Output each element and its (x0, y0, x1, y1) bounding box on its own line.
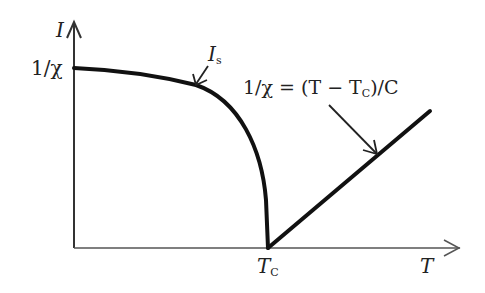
chi-equation-main: 1/χ = (T − T (243, 76, 362, 98)
chi-pointer-arrow (329, 105, 376, 153)
is-label-main: I (208, 42, 216, 66)
y-axis-label: I (56, 18, 64, 42)
tc-tick-label: TC (257, 254, 279, 279)
x-axis-label: T (420, 254, 433, 278)
plot-svg (0, 0, 485, 293)
tc-main: T (257, 254, 270, 278)
chi-equation-sub: C (362, 87, 370, 100)
chi-equation-label: 1/χ = (T − TC)/C (243, 76, 399, 100)
diagram-canvas: I 1/χ Is 1/χ = (T − TC)/C TC T (0, 0, 485, 293)
is-label: Is (208, 42, 222, 67)
magnetization-curve (74, 68, 268, 248)
chi-equation-tail: )/C (370, 76, 398, 98)
tc-sub: C (270, 266, 278, 279)
y-tick-label: 1/χ (31, 56, 63, 80)
inverse-susceptibility-line (268, 111, 430, 248)
is-label-sub: s (216, 54, 222, 67)
